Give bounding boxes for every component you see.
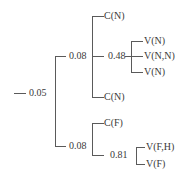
node-048-line <box>92 56 104 57</box>
leaf-label: V(N) <box>144 67 165 77</box>
bottom-branch-bracket <box>92 123 93 156</box>
leaf-line <box>125 56 143 57</box>
leaf-line <box>131 41 143 42</box>
dendrogram: 0.05 0.08 C(N) 0.48 V(N) V(N,N) V(N) C(N… <box>0 0 188 175</box>
leaf-line <box>92 123 104 124</box>
node-048-bracket <box>131 41 132 73</box>
leaf-label: V(N,N) <box>144 51 175 61</box>
node-081-value: 0.81 <box>110 150 128 160</box>
leaf-label: V(F) <box>146 159 165 169</box>
leaf-label: C(F) <box>104 118 123 128</box>
root-bracket <box>55 56 56 147</box>
leaf-line <box>92 16 104 17</box>
node-081-bracket <box>136 147 137 165</box>
node-048-value: 0.48 <box>108 51 126 61</box>
leaf-label: C(N) <box>104 92 125 102</box>
top-branch-bracket <box>92 16 93 98</box>
node-081-line <box>92 155 104 156</box>
bottom-branch-value: 0.08 <box>69 141 87 151</box>
bottom-branch-line <box>55 146 66 147</box>
root-value: 0.05 <box>29 88 47 98</box>
leaf-line <box>131 72 143 73</box>
leaf-label: V(N) <box>144 36 165 46</box>
root-stem-line <box>14 93 26 94</box>
leaf-line <box>136 164 145 165</box>
leaf-line <box>136 147 145 148</box>
leaf-label: V(F,H) <box>146 142 174 152</box>
leaf-label: C(N) <box>104 11 125 21</box>
top-branch-line <box>55 56 66 57</box>
leaf-line <box>92 97 104 98</box>
top-branch-value: 0.08 <box>69 51 87 61</box>
